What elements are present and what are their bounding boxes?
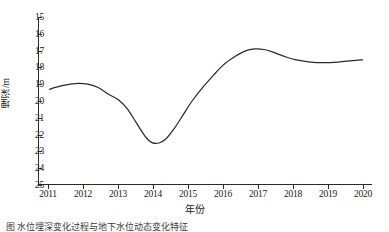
y-axis-title: 埋深/m [1, 78, 15, 108]
series-line-maishen [39, 17, 373, 185]
x-tick-label: 2016 [203, 190, 243, 200]
x-tick-label: 2015 [168, 190, 208, 200]
x-tick-label: 2012 [63, 190, 103, 200]
figure-caption: 图 水位埋深变化过程与地下水位动态变化特征 [6, 222, 384, 232]
x-tick-label: 2011 [28, 190, 68, 200]
x-tick-label: 2013 [98, 190, 138, 200]
chart-figure: 15 16 17 18 19 20 21 22 23 24 25 埋深/m [0, 0, 389, 232]
x-tick-label: 2018 [273, 190, 313, 200]
x-tick-label: 2019 [308, 190, 348, 200]
x-tick-label: 2014 [133, 190, 173, 200]
line-path [49, 49, 362, 144]
x-axis-title: 年份 [0, 204, 389, 215]
plot-area [38, 17, 372, 185]
y-tick-mark [38, 185, 42, 186]
x-tick-label: 2020 [343, 190, 383, 200]
x-tick-label: 2017 [238, 190, 278, 200]
